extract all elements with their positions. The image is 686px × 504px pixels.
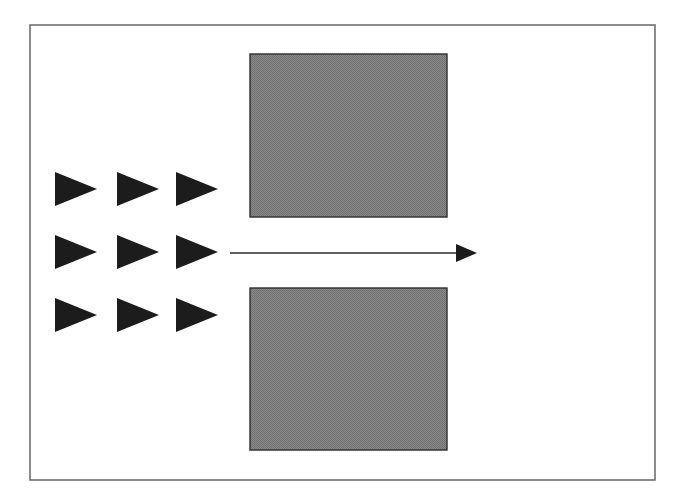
figure-canvas [0, 0, 686, 504]
gray-rectangle-bottom-texture [250, 288, 447, 450]
gray-rectangle-top-texture [250, 54, 447, 217]
triangle-grid [55, 172, 218, 332]
diagram-svg [0, 0, 686, 504]
